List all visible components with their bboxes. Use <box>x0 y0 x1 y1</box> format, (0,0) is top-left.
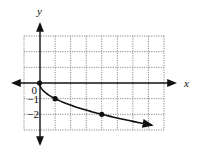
curve-y-neg-sqrt-x <box>40 83 152 125</box>
data-point <box>99 112 104 117</box>
data-point <box>53 96 58 101</box>
y-axis-label: y <box>36 5 42 17</box>
x-axis-label: x <box>183 77 189 89</box>
tick-label-neg1: −1 <box>27 93 39 105</box>
data-point <box>37 80 42 85</box>
function-graph: y x 0 −1 −2 <box>0 0 198 152</box>
tick-label-neg2: −2 <box>27 108 39 120</box>
